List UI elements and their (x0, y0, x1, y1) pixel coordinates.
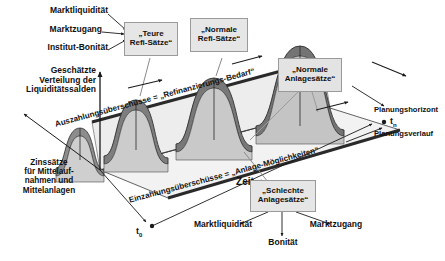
diagram-canvas: Marktliquidität Marktzugang Institut-Bon… (0, 0, 445, 261)
measure-bar-4 (372, 62, 406, 76)
tn-point (382, 120, 386, 124)
callout-normale-refi[interactable]: „Normale Refi-Sätze“ (190, 18, 248, 52)
factor-bonitaet-bottom: Bonität (248, 238, 318, 248)
axis-label-depth: Zinssätze für Mittelauf- nahmen und Mitt… (6, 158, 92, 195)
planning-horizon-label: Planungshorizont (374, 106, 445, 115)
factor-marktzugang-bottom: Marktzugang (300, 220, 372, 230)
leader-teure-refi (140, 58, 150, 96)
leader-marktzugang-top (102, 32, 124, 34)
t-end-subscript: n (393, 122, 397, 128)
leader-normale-refi (216, 58, 222, 76)
leader-planungshorizont (352, 86, 384, 106)
callout-schlechte-anlage[interactable]: „Schlechte Anlagesätze“ (250, 180, 316, 212)
axis-label-vertical: Geschätzte Verteilung der Liquiditätssal… (6, 66, 96, 95)
planning-course-label: Planungsverlauf (374, 130, 445, 139)
t-start-label: t0 (136, 226, 160, 239)
factor-marktzugang-top: Marktzugang (6, 25, 102, 35)
factor-marktliquiditaet-bottom: Marktliquidität (184, 220, 262, 230)
callout-normale-anlage[interactable]: „Normale Anlagesätze“ (278, 58, 342, 92)
t-start-subscript: 0 (139, 232, 142, 238)
measure-bar-1 (128, 80, 162, 88)
factor-institut-bonitaet-top: Institut-Bonität (4, 43, 108, 53)
measure-bar-2 (232, 56, 262, 64)
callout-teure-refi[interactable]: „Teure Refi-Sätze“ (124, 22, 178, 56)
factor-marktliquiditaet-top: Marktliquidität (6, 6, 108, 16)
t-end-label: tn (390, 116, 414, 129)
